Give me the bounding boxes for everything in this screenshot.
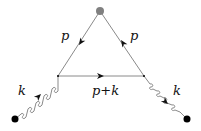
label-right-fermion: p (130, 29, 138, 42)
label-right-gluon: k (173, 84, 181, 97)
right-gluon-arrow-icon (161, 97, 170, 106)
left-fermion-line (58, 11, 100, 76)
label-bottom-fermion: p+k (92, 84, 119, 97)
label-left-gluon: k (18, 84, 26, 97)
top-vertex-dot (96, 7, 104, 15)
left-external-dot (12, 116, 19, 123)
left-gluon-arrow-icon (34, 92, 43, 101)
right-external-dot (184, 116, 191, 123)
feynman-diagram (0, 0, 201, 131)
label-left-fermion: p (61, 29, 69, 42)
